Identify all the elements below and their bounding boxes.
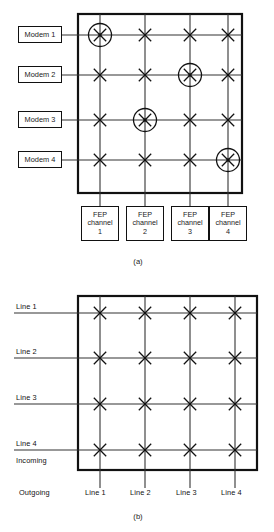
panel-a-artwork <box>62 14 242 210</box>
closed-dot-r2c3 <box>188 73 191 76</box>
modem-box-2: Modem 2 <box>18 66 62 83</box>
matrix-frame-b <box>78 296 257 470</box>
modem-box-4: Modem 4 <box>18 151 62 168</box>
modem-box-3: Modem 3 <box>18 111 62 128</box>
closed-crosspoints-a <box>89 24 240 172</box>
outgoing-axis-label: Outgoing <box>19 488 50 497</box>
outgoing-line-1-label: Line 1 <box>85 488 106 497</box>
fep-channel-box-1: FEP channel 1 <box>81 206 119 241</box>
incoming-line-4-label: Line 4 <box>16 439 37 448</box>
modem-box-3-label: Modem 3 <box>25 115 56 124</box>
outgoing-line-2-label: Line 2 <box>130 488 151 497</box>
panel-b-artwork <box>14 296 257 488</box>
fep-channel-box-4-line3: 4 <box>226 228 230 236</box>
panel-b-caption: (b) <box>118 512 158 521</box>
incoming-line-2-label: Line 2 <box>16 347 37 356</box>
fep-channel-box-1-line3: 1 <box>98 228 102 236</box>
figure-stage: Modem 1 Modem 2 Modem 3 Modem 4 FEP chan… <box>0 0 274 532</box>
modem-box-1-label: Modem 1 <box>25 30 56 39</box>
fep-channel-box-2-line3: 2 <box>143 228 147 236</box>
incoming-line-1-label: Line 1 <box>16 302 37 311</box>
fep-channel-box-4: FEP channel 4 <box>209 206 247 241</box>
closed-dot-r1c1 <box>98 33 101 36</box>
fep-channel-box-3: FEP channel 3 <box>171 206 209 241</box>
incoming-axis-label: Incoming <box>16 456 47 465</box>
fep-channel-box-2: FEP channel 2 <box>126 206 164 241</box>
incoming-line-3-label: Line 3 <box>16 393 37 402</box>
modem-box-1: Modem 1 <box>18 26 62 43</box>
matrix-frame-a <box>78 14 242 193</box>
fep-channel-box-3-line3: 3 <box>188 228 192 236</box>
closed-dot-r3c2 <box>143 118 146 121</box>
panel-a-caption: (a) <box>118 257 158 266</box>
closed-dot-r4c4 <box>226 158 229 161</box>
outgoing-line-3-label: Line 3 <box>176 488 197 497</box>
modem-box-4-label: Modem 4 <box>25 155 56 164</box>
modem-box-2-label: Modem 2 <box>25 70 56 79</box>
outgoing-line-4-label: Line 4 <box>221 488 242 497</box>
